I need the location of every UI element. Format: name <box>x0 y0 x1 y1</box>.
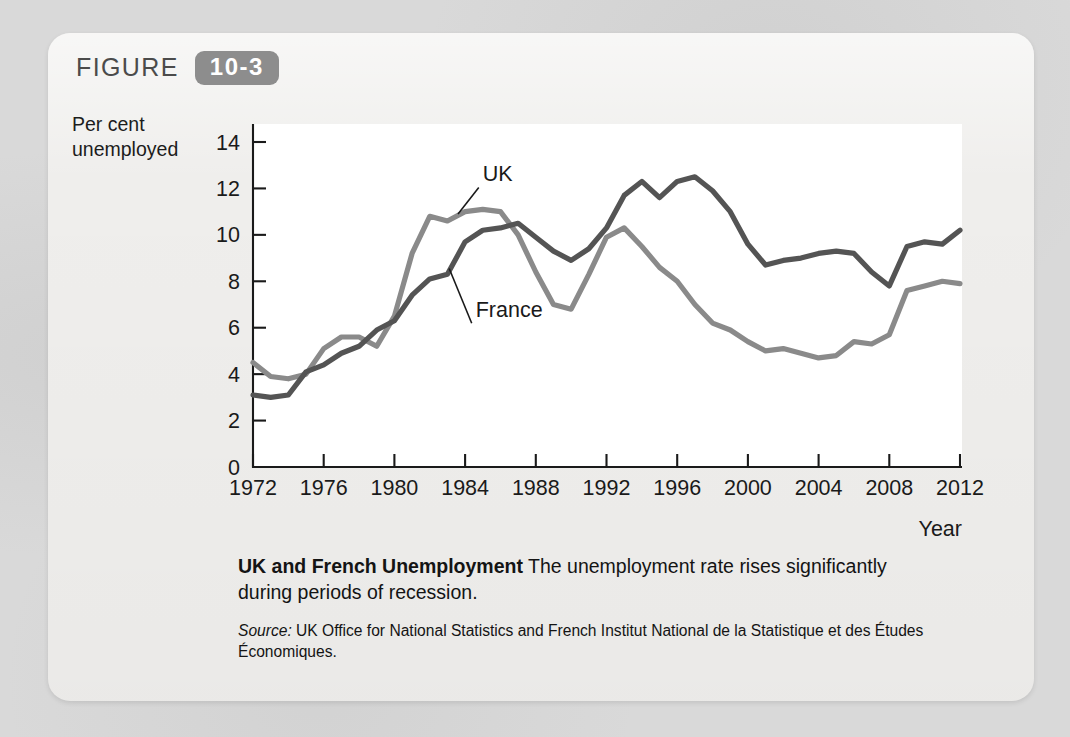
source-text: UK Office for National Statistics and Fr… <box>238 622 923 660</box>
x-axis-tick-label: 1988 <box>512 476 560 500</box>
caption-source: Source: UK Office for National Statistic… <box>238 621 928 663</box>
x-axis-tick-label: 2012 <box>936 476 984 500</box>
y-axis-tick-label: 8 <box>228 270 240 294</box>
caption-title: UK and French Unemployment <box>238 555 523 577</box>
y-axis-tick-label: 14 <box>216 131 240 155</box>
x-axis-tick-label: 2008 <box>865 476 913 500</box>
plot-background <box>253 124 962 467</box>
annotation-label-uk: UK <box>483 162 514 186</box>
y-axis-tick-label: 6 <box>228 316 240 340</box>
y-axis-tick-label: 2 <box>228 409 240 433</box>
annotation-label-france: France <box>476 298 543 322</box>
x-axis-tick-label: 1984 <box>441 476 489 500</box>
x-axis-tick-label: 1972 <box>229 476 277 500</box>
x-axis-tick-label: 1996 <box>653 476 701 500</box>
x-axis-tick-label: 1992 <box>583 476 631 500</box>
figure-card: FIGURE 10-3 Per cent unemployed 02468101… <box>48 33 1034 701</box>
source-label: Source: <box>238 622 292 639</box>
caption-main-text: UK and French Unemployment The unemploym… <box>238 554 928 605</box>
y-axis-tick-label: 4 <box>228 363 240 387</box>
figure-caption: UK and French Unemployment The unemploym… <box>238 554 928 663</box>
x-axis-tick-label: 2000 <box>724 476 772 500</box>
x-axis-tick-label: 1976 <box>300 476 348 500</box>
x-axis-tick-label: 1980 <box>370 476 418 500</box>
y-axis-tick-label: 10 <box>216 223 240 247</box>
y-axis-tick-label: 12 <box>216 177 240 201</box>
x-axis-title: Year <box>919 517 962 541</box>
x-axis-tick-label: 2004 <box>795 476 843 500</box>
